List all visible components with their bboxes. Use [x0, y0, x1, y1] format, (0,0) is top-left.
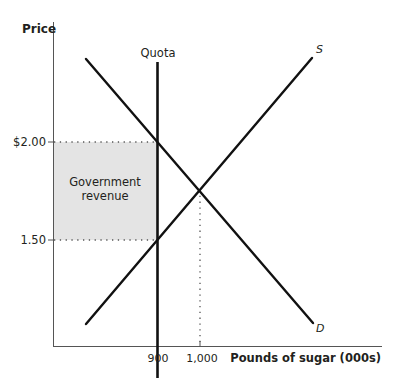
revenue-label-line1: Government: [69, 175, 141, 189]
x-tick-eq-label: 1,000: [186, 352, 218, 365]
supply-label: S: [316, 43, 323, 56]
quota-label: Quota: [141, 46, 176, 60]
y-tick-high-label: $2.00: [13, 135, 46, 149]
demand-label: D: [316, 322, 324, 335]
sugar-quota-chart: Price Quota S D $2.00 1.50 900 1,000 Pou…: [0, 0, 405, 378]
y-axis-label: Price: [22, 22, 56, 36]
x-axis-label: Pounds of sugar (000s): [230, 351, 381, 365]
revenue-label-line2: revenue: [81, 189, 128, 203]
y-tick-low-label: 1.50: [20, 233, 46, 247]
x-tick-quota-label: 900: [148, 352, 169, 365]
